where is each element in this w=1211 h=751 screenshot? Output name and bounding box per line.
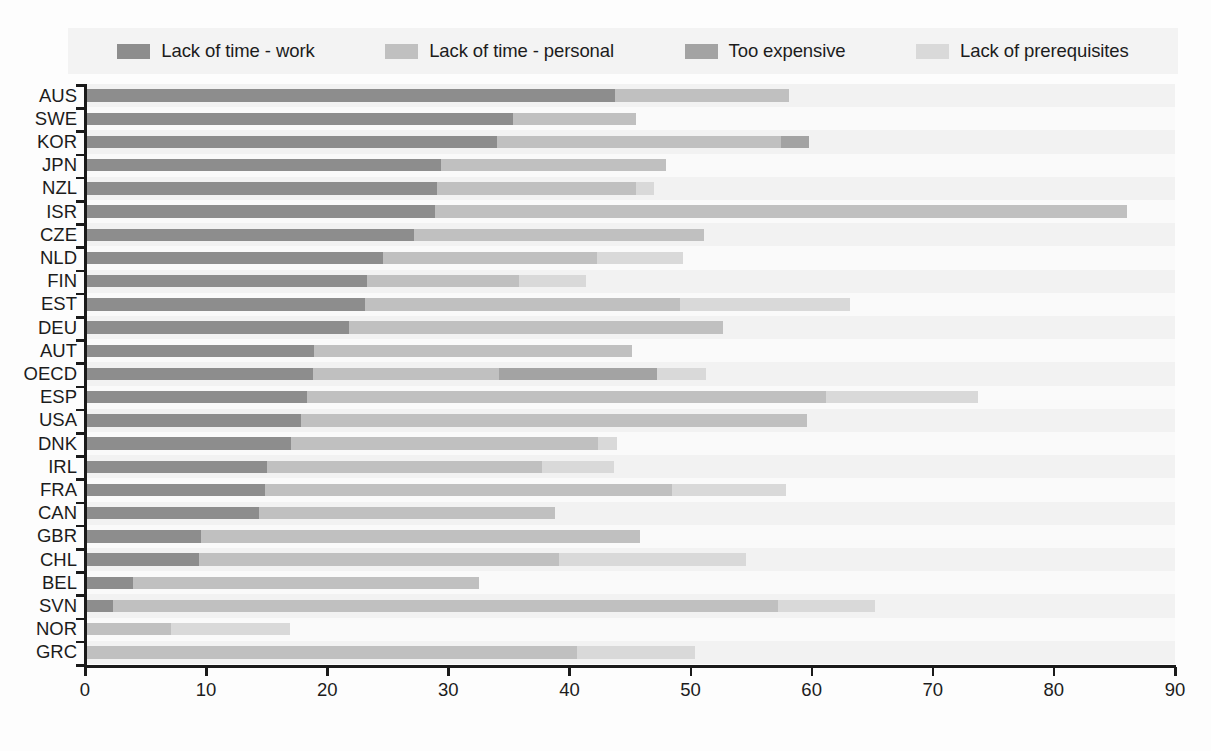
y-axis-tick <box>76 548 85 551</box>
legend-item[interactable]: Lack of time - work <box>117 40 314 62</box>
bar-segment <box>559 553 747 566</box>
y-axis-label-irl: IRL <box>48 458 77 477</box>
y-axis-label-chl: CHL <box>40 551 77 570</box>
bar-segment <box>85 391 307 404</box>
bar-dnk[interactable] <box>85 437 617 450</box>
bar-segment <box>85 89 615 102</box>
legend-swatch-icon <box>916 44 949 59</box>
bar-segment <box>519 275 587 288</box>
bar-segment <box>414 229 703 242</box>
y-axis-label-dnk: DNK <box>38 435 77 454</box>
y-axis-tick <box>76 478 85 481</box>
bar-segment <box>85 345 314 358</box>
bar-segment <box>435 205 1127 218</box>
bar-segment <box>513 113 637 126</box>
bar-fin[interactable] <box>85 275 586 288</box>
y-axis-label-jpn: JPN <box>42 156 77 175</box>
bar-segment <box>349 321 723 334</box>
bar-segment <box>636 182 654 195</box>
y-axis-label-svn: SVN <box>39 597 77 616</box>
bar-nor[interactable] <box>85 623 290 636</box>
y-axis-labels: AUSSWEKORJPNNZLISRCZENLDFINESTDEUAUTOECD… <box>0 84 85 664</box>
y-axis-label-can: CAN <box>38 504 77 523</box>
bar-fra[interactable] <box>85 484 786 497</box>
x-axis-tick <box>447 667 450 676</box>
y-axis-tick <box>76 409 85 412</box>
y-axis-tick <box>76 293 85 296</box>
y-axis-tick <box>76 130 85 133</box>
bar-cze[interactable] <box>85 229 704 242</box>
bar-segment <box>499 368 656 381</box>
bar-swe[interactable] <box>85 113 636 126</box>
x-axis-tick <box>1174 667 1177 676</box>
bar-segment <box>85 507 259 520</box>
bar-segment <box>85 136 497 149</box>
bar-segment <box>133 577 478 590</box>
y-axis-tick <box>76 339 85 342</box>
x-axis-tick <box>568 667 571 676</box>
x-axis-tick <box>84 667 87 676</box>
bar-segment <box>437 182 636 195</box>
x-axis-tick <box>811 667 814 676</box>
bar-nld[interactable] <box>85 252 683 265</box>
legend-item-label: Lack of time - personal <box>429 40 614 62</box>
y-axis-label-fra: FRA <box>40 481 77 500</box>
y-axis-label-swe: SWE <box>35 110 77 129</box>
y-axis-tick <box>76 200 85 203</box>
bar-segment <box>85 182 437 195</box>
bar-segment <box>781 136 809 149</box>
bar-aus[interactable] <box>85 89 789 102</box>
legend-item[interactable]: Lack of prerequisites <box>916 40 1129 62</box>
x-axis-tick-label: 30 <box>438 679 459 701</box>
bar-gbr[interactable] <box>85 530 640 543</box>
bar-segment <box>778 600 875 613</box>
legend-item[interactable]: Too expensive <box>685 40 846 62</box>
x-axis-line <box>84 665 1176 668</box>
bar-segment <box>85 252 383 265</box>
legend-item-label: Lack of time - work <box>161 40 314 62</box>
y-axis-tick <box>76 270 85 273</box>
bar-aut[interactable] <box>85 345 632 358</box>
stacked-bar-chart: Lack of time - workLack of time - person… <box>0 0 1211 751</box>
bar-bel[interactable] <box>85 577 479 590</box>
bar-segment <box>367 275 518 288</box>
bar-deu[interactable] <box>85 321 723 334</box>
bar-irl[interactable] <box>85 461 614 474</box>
bar-jpn[interactable] <box>85 159 666 172</box>
bar-est[interactable] <box>85 298 850 311</box>
x-axis-tick-label: 10 <box>196 679 217 701</box>
bar-usa[interactable] <box>85 414 807 427</box>
bar-segment <box>199 553 559 566</box>
bar-segment <box>85 298 365 311</box>
y-axis-line <box>84 84 87 667</box>
bar-segment <box>542 461 615 474</box>
bar-svn[interactable] <box>85 600 875 613</box>
bar-isr[interactable] <box>85 205 1127 218</box>
y-axis-tick <box>76 525 85 528</box>
x-axis-tick-label: 60 <box>801 679 822 701</box>
bar-segment <box>301 414 807 427</box>
bar-segment <box>826 391 977 404</box>
bar-chl[interactable] <box>85 553 746 566</box>
y-axis-tick <box>76 177 85 180</box>
legend-swatch-icon <box>117 44 150 59</box>
bar-segment <box>85 623 171 636</box>
y-axis-tick <box>76 455 85 458</box>
bar-grc[interactable] <box>85 646 695 659</box>
bar-segment <box>85 159 441 172</box>
bar-can[interactable] <box>85 507 555 520</box>
y-axis-label-isr: ISR <box>46 203 77 222</box>
bar-oecd[interactable] <box>85 368 706 381</box>
y-axis-tick <box>76 223 85 226</box>
bar-kor[interactable] <box>85 136 809 149</box>
x-axis-tick-label: 70 <box>922 679 943 701</box>
x-axis-tick-label: 40 <box>559 679 580 701</box>
bar-nzl[interactable] <box>85 182 654 195</box>
bar-segment <box>85 577 133 590</box>
bar-segment <box>85 461 267 474</box>
y-axis-label-usa: USA <box>39 411 77 430</box>
y-axis-tick <box>76 107 85 110</box>
legend-item[interactable]: Lack of time - personal <box>385 40 614 62</box>
bar-esp[interactable] <box>85 391 978 404</box>
bar-segment <box>85 646 577 659</box>
